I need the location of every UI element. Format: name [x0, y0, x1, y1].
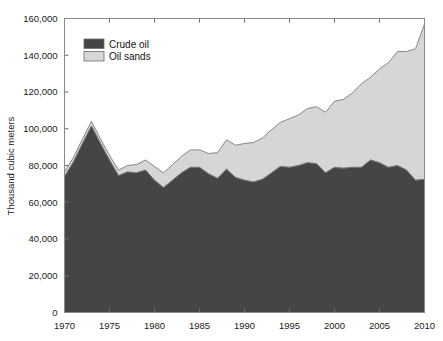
x-tick-label: 1985 — [189, 320, 210, 331]
y-tick-label: 160,000 — [23, 13, 57, 24]
x-tick-label: 2005 — [369, 320, 390, 331]
x-tick-label: 2000 — [324, 320, 345, 331]
x-tick-label: 2010 — [414, 320, 435, 331]
chart-canvas: 020,00040,00060,00080,000100,000120,0001… — [0, 0, 443, 341]
y-tick-label: 80,000 — [28, 160, 57, 171]
legend-label: Crude oil — [109, 39, 149, 50]
legend-label: Oil sands — [109, 51, 151, 62]
y-tick-label: 100,000 — [23, 123, 57, 134]
x-tick-label: 1990 — [234, 320, 255, 331]
y-tick-label: 140,000 — [23, 50, 57, 61]
y-tick-label: 40,000 — [28, 233, 57, 244]
y-axis-title: Thousand cubic meters — [5, 116, 16, 215]
x-tick-label: 1995 — [279, 320, 300, 331]
x-axis-tick-labels: 197019751980198519901995200020052010 — [54, 320, 435, 331]
x-tick-label: 1975 — [99, 320, 120, 331]
area-chart: 020,00040,00060,00080,000100,000120,0001… — [0, 0, 443, 341]
y-tick-label: 0 — [52, 307, 57, 318]
y-tick-label: 60,000 — [28, 197, 57, 208]
x-tick-label: 1980 — [144, 320, 165, 331]
legend-swatch — [84, 52, 104, 62]
legend-swatch — [84, 39, 104, 49]
y-axis-tick-labels: 020,00040,00060,00080,000100,000120,0001… — [23, 13, 57, 318]
x-tick-label: 1970 — [54, 320, 75, 331]
y-tick-label: 20,000 — [28, 270, 57, 281]
y-tick-label: 120,000 — [23, 86, 57, 97]
